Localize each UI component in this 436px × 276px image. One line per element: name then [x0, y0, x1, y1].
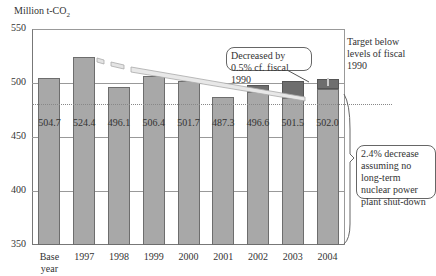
x-tick-label: 2000 — [172, 251, 206, 263]
callout-pointer — [285, 70, 315, 85]
target-note: Target below levels of fiscal 1990 — [347, 36, 419, 72]
y-tick-label: 400 — [0, 184, 26, 195]
y-tick-label: 350 — [0, 238, 26, 249]
y-axis-label: Million t-CO2 — [14, 5, 70, 19]
bar — [317, 89, 339, 245]
y-tick-label: 550 — [0, 22, 26, 33]
bar-value-label: 524.4 — [67, 117, 101, 128]
bar-value-label: 501.7 — [172, 117, 206, 128]
bar-value-label: 496.1 — [102, 117, 136, 128]
bar — [247, 92, 269, 245]
bar-value-label: 487.3 — [206, 117, 240, 128]
bar-value-label: 506.4 — [137, 117, 171, 128]
x-tick-label: 2004 — [311, 251, 345, 263]
x-tick-label: 1997 — [67, 251, 101, 263]
bar — [73, 57, 95, 245]
bar-value-label: 504.7 — [32, 117, 66, 128]
x-tick-label: 2001 — [206, 251, 240, 263]
x-tick-label: 2003 — [276, 251, 310, 263]
y-tick-label: 500 — [0, 76, 26, 87]
bar-value-label: 496.6 — [241, 117, 275, 128]
bar-value-label: 501.5 — [276, 117, 310, 128]
callout-decreased: Decreased by 0.5% cf. fiscal 1990 — [226, 47, 312, 71]
y-axis-label-subscript: 2 — [67, 11, 71, 19]
x-tick-label: 1998 — [102, 251, 136, 263]
x-tick-label: Base year — [32, 251, 66, 275]
callout-nuclear: 2.4% decrease assuming no long-term nucl… — [356, 145, 436, 199]
x-tick-label: 2002 — [241, 251, 275, 263]
bar — [108, 87, 130, 245]
bar — [38, 78, 60, 245]
bar — [178, 81, 200, 245]
y-axis-label-text: Million t-CO — [14, 5, 67, 16]
x-tick-label: 1999 — [137, 251, 171, 263]
bar-value-label: 502.0 — [311, 117, 345, 128]
y-tick-label: 450 — [0, 130, 26, 141]
